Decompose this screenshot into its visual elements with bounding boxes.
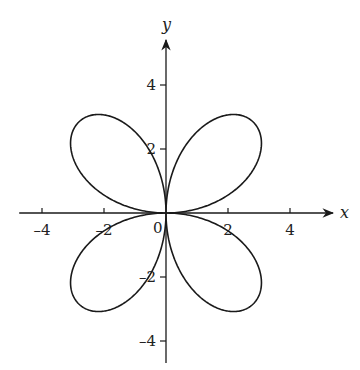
axes <box>19 40 333 363</box>
x-tick-label: –4 <box>33 221 50 239</box>
x-tick-label: 4 <box>285 221 295 239</box>
y-tick-label: 4 <box>146 76 156 94</box>
y-tick-label: –4 <box>139 332 156 350</box>
origin-label: 0 <box>153 219 163 237</box>
y-tick-label: –2 <box>139 268 156 286</box>
polar-rose-chart: –4–22442–2–4 x y 0 <box>0 0 360 370</box>
y-axis-label: y <box>161 15 172 34</box>
x-axis-label: x <box>340 203 349 222</box>
